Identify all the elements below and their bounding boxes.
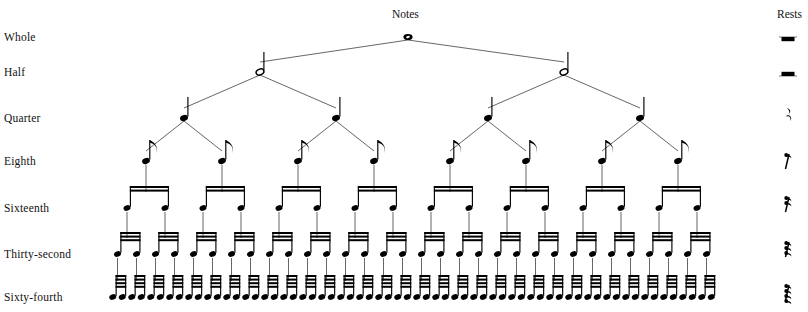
tree-branches (118, 40, 707, 281)
note-value-tree-diagram: Notes Rests Whole Half Quarter Eighth Si… (0, 0, 808, 312)
notation-canvas (0, 0, 808, 312)
note-glyphs (108, 34, 715, 301)
rest-glyphs (779, 37, 797, 304)
